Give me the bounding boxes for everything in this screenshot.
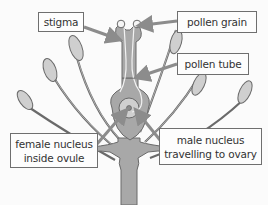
label-stigma: stigma	[38, 12, 84, 32]
flower-fertilisation-diagram: stigma pollen grain pollen tube female n…	[0, 0, 268, 205]
label-male-nucleus: male nucleus travelling to ovary	[159, 128, 262, 165]
label-male-nucleus-line1: male nucleus	[177, 133, 245, 147]
stem	[92, 138, 168, 205]
label-pollen-tube-text: pollen tube	[184, 57, 241, 71]
label-female-nucleus-line2: inside ovule	[24, 151, 85, 165]
label-male-nucleus-line2: travelling to ovary	[164, 147, 257, 161]
label-pollen-grain: pollen grain	[177, 11, 257, 33]
label-pollen-tube: pollen tube	[177, 53, 249, 75]
female-nucleus	[127, 106, 132, 111]
label-stigma-text: stigma	[44, 15, 79, 29]
pollen-grains	[117, 20, 141, 28]
label-female-nucleus: female nucleus inside ovule	[10, 133, 98, 168]
style	[116, 24, 142, 78]
label-pollen-grain-text: pollen grain	[187, 15, 247, 29]
label-female-nucleus-line1: female nucleus	[15, 137, 92, 151]
